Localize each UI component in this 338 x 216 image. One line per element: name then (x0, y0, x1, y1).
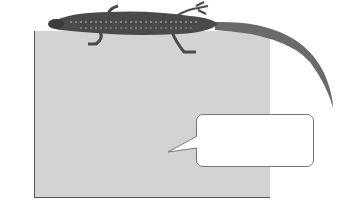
annotation-callout (196, 114, 314, 167)
callout-pointer (160, 130, 200, 160)
